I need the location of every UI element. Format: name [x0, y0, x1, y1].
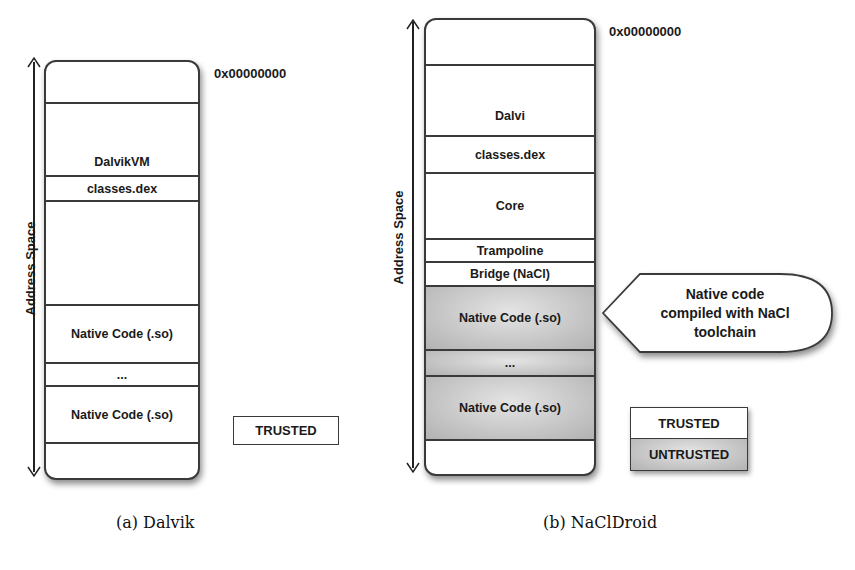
- segment-native-code-untrusted: Native Code (.so): [426, 375, 594, 439]
- segment-native-code: Native Code (.so): [46, 304, 198, 362]
- callout-line: toolchain: [640, 323, 810, 342]
- segment-empty: [46, 62, 198, 102]
- axis-label: Address Space: [391, 188, 406, 288]
- callout-line: compiled with NaCl: [640, 304, 810, 323]
- segment-native-code: Native Code (.so): [46, 385, 198, 442]
- memory-stack: DalvikVM classes.dex Native Code (.so) .…: [44, 60, 200, 480]
- segment-core: Core: [426, 172, 594, 238]
- caption-a: (a) Dalvik: [116, 513, 194, 532]
- segment-native-code-untrusted: Native Code (.so): [426, 285, 594, 349]
- arrow-down-icon: [27, 466, 41, 478]
- callout-line: Native code: [640, 285, 810, 304]
- legend: TRUSTED UNTRUSTED: [630, 407, 748, 471]
- segment-empty: [426, 439, 594, 474]
- axis-label: Address Space: [23, 219, 38, 319]
- segment-ellipsis: ...: [46, 362, 198, 385]
- legend-trusted: TRUSTED: [631, 408, 747, 439]
- segment-bridge-nacl: Bridge (NaCl): [426, 261, 594, 285]
- segment-empty: [46, 200, 198, 304]
- segment-classes-dex: classes.dex: [46, 175, 198, 200]
- memory-stack: Dalvi classes.dex Core Trampoline Bridge…: [424, 18, 596, 476]
- legend-trusted: TRUSTED: [233, 416, 339, 445]
- arrow-up-icon: [27, 56, 41, 68]
- segment-ellipsis-untrusted: ...: [426, 349, 594, 375]
- address-space-axis: [412, 22, 414, 468]
- arrow-up-icon: [406, 18, 420, 30]
- address-label: 0x00000000: [214, 66, 286, 81]
- callout-text: Native code compiled with NaCl toolchain: [640, 285, 810, 342]
- segment-dalvik: Dalvi: [426, 64, 594, 135]
- segment-empty: [426, 20, 594, 64]
- arrow-down-icon: [406, 462, 420, 474]
- segment-trampoline: Trampoline: [426, 238, 594, 261]
- caption-b: (b) NaClDroid: [543, 513, 657, 532]
- address-label: 0x00000000: [609, 24, 681, 39]
- segment-empty: [46, 442, 198, 480]
- segment-classes-dex: classes.dex: [426, 135, 594, 172]
- legend-untrusted: UNTRUSTED: [631, 439, 747, 470]
- segment-dalvikvm: DalvikVM: [46, 102, 198, 175]
